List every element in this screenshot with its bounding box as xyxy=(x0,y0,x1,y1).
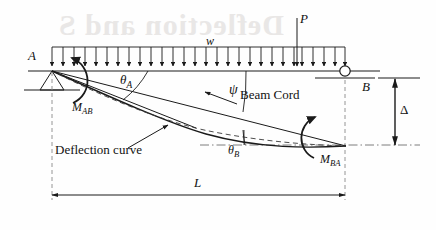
support-b-roller xyxy=(315,66,375,78)
label-deflection-curve: Deflection curve xyxy=(55,143,142,156)
label-theta-a: θA xyxy=(120,73,132,90)
label-psi: ψ xyxy=(229,83,238,97)
moment-ab-subscript: AB xyxy=(82,106,93,116)
label-moment-ba: MBA xyxy=(320,153,341,168)
moment-ba-subscript: BA xyxy=(330,158,341,168)
theta-a-subscript: A xyxy=(126,80,132,90)
label-support-b: B xyxy=(362,80,370,93)
label-delta: Δ xyxy=(400,103,408,116)
distributed-load-arrows xyxy=(52,47,345,66)
label-moment-ab: MAB xyxy=(72,101,93,116)
theta-b-subscript: B xyxy=(234,149,239,159)
moment-ab-symbol: M xyxy=(72,100,82,114)
label-point-load: P xyxy=(300,12,308,25)
label-theta-b: θB xyxy=(228,144,239,159)
moment-ba-symbol: M xyxy=(320,152,330,166)
label-beam-cord: Beam Cord xyxy=(240,88,300,101)
label-support-a: A xyxy=(28,49,36,62)
label-span-l: L xyxy=(194,176,201,189)
label-distributed-load: w xyxy=(206,35,214,47)
figure-canvas: Deflection and S xyxy=(0,0,436,230)
beam-diagram xyxy=(0,0,436,230)
